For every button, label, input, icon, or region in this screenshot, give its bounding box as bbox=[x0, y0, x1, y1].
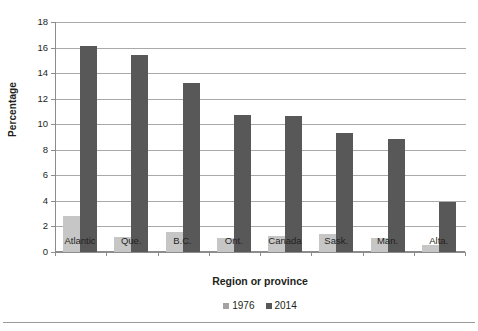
legend-label-1976: 1976 bbox=[232, 301, 254, 311]
x-tick bbox=[260, 252, 261, 256]
bar-2014[interactable] bbox=[80, 46, 97, 252]
x-tick bbox=[363, 252, 364, 256]
x-tick bbox=[414, 252, 415, 256]
y-tick-label-14: 14 bbox=[37, 68, 48, 78]
y-axis-title: Percentage bbox=[7, 82, 18, 137]
gridline-0 bbox=[56, 252, 466, 253]
bar-2014[interactable] bbox=[285, 116, 302, 252]
bar-group bbox=[209, 22, 260, 252]
bar-group bbox=[311, 22, 362, 252]
bar-1976[interactable] bbox=[422, 245, 439, 252]
chart-legend-items: 19762014 bbox=[181, 301, 297, 311]
y-tick-label-8: 8 bbox=[43, 145, 48, 155]
x-tick bbox=[209, 252, 210, 256]
bar-group bbox=[158, 22, 209, 252]
y-tick-label-10: 10 bbox=[37, 119, 48, 129]
bar-2014[interactable] bbox=[131, 55, 148, 252]
x-tick bbox=[311, 252, 312, 256]
chart-legend: 19762014 bbox=[0, 301, 478, 311]
y-tick-label-2: 2 bbox=[43, 222, 48, 232]
legend-label-2014: 2014 bbox=[275, 301, 297, 311]
x-tick-origin bbox=[55, 252, 56, 256]
y-tick-label-4: 4 bbox=[43, 196, 48, 206]
y-tick-label-16: 16 bbox=[37, 43, 48, 53]
bar-group bbox=[260, 22, 311, 252]
x-axis-title: Region or province bbox=[0, 275, 478, 287]
bar-2014[interactable] bbox=[183, 83, 200, 252]
x-axis-title-text: Region or province bbox=[170, 275, 308, 287]
bars-layer bbox=[55, 22, 465, 252]
y-tick-label-18: 18 bbox=[37, 17, 48, 27]
x-tick bbox=[465, 252, 466, 256]
legend-item-1976[interactable]: 1976 bbox=[223, 301, 254, 311]
bar-group bbox=[363, 22, 414, 252]
y-tick-label-12: 12 bbox=[37, 94, 48, 104]
bar-group bbox=[106, 22, 157, 252]
bar-group bbox=[55, 22, 106, 252]
bar-chart-figure: Percentage 024681012141618 AtlanticQue.B… bbox=[0, 0, 478, 331]
x-axis-label-alta: Alta. bbox=[399, 236, 478, 246]
legend-item-2014[interactable]: 2014 bbox=[266, 301, 297, 311]
bar-2014[interactable] bbox=[234, 115, 251, 252]
y-tick-label-0: 0 bbox=[43, 247, 48, 257]
x-tick bbox=[106, 252, 107, 256]
footer-divider bbox=[3, 322, 475, 323]
legend-swatch-icon-1976 bbox=[223, 303, 229, 309]
y-tick-label-6: 6 bbox=[43, 171, 48, 181]
x-tick bbox=[158, 252, 159, 256]
legend-swatch-icon-2014 bbox=[266, 303, 272, 309]
bar-group bbox=[414, 22, 465, 252]
